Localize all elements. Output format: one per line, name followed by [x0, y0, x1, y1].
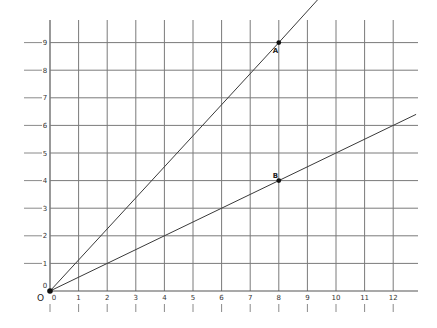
y-tick-label-3: 3: [43, 205, 47, 213]
point-label-b: B: [273, 172, 278, 180]
y-tick-label-8: 8: [43, 67, 47, 75]
vertical-gridlines: [50, 20, 393, 291]
y-tick-label-4: 4: [43, 177, 48, 185]
y-tick-label-7: 7: [43, 94, 47, 102]
y-tick-label-1: 1: [43, 260, 47, 268]
x-tick-label-1: 1: [76, 294, 80, 302]
y-tick-label-5: 5: [43, 150, 47, 158]
y-tick-label-2: 2: [43, 232, 47, 240]
coordinate-grid-chart: 0123456789 0123456789101112 AB O: [0, 0, 437, 328]
x-tick-label-12: 12: [389, 294, 398, 302]
x-tick-label-3: 3: [134, 294, 138, 302]
origin-label: O: [37, 293, 44, 303]
line-ob: [50, 114, 416, 291]
point-a: [276, 40, 281, 45]
x-tick-label-10: 10: [332, 294, 341, 302]
x-tick-label-9: 9: [305, 294, 309, 302]
x-axis-ticks: 0123456789101112: [50, 294, 398, 312]
point-label-a: A: [273, 47, 279, 55]
y-axis-ticks: 0123456789: [24, 39, 48, 290]
origin-point: [47, 288, 53, 294]
x-tick-label-8: 8: [277, 294, 281, 302]
y-tick-label-6: 6: [43, 122, 48, 130]
x-tick-label-7: 7: [248, 294, 252, 302]
x-tick-label-11: 11: [360, 294, 369, 302]
x-tick-label-4: 4: [162, 294, 167, 302]
horizontal-gridlines: [50, 43, 418, 291]
x-tick-label-2: 2: [105, 294, 109, 302]
y-tick-label-0: 0: [43, 282, 47, 290]
y-tick-label-9: 9: [43, 39, 47, 47]
data-lines: [50, 0, 416, 291]
x-tick-label-0: 0: [52, 294, 56, 302]
x-tick-label-6: 6: [219, 294, 224, 302]
x-tick-label-5: 5: [191, 294, 195, 302]
